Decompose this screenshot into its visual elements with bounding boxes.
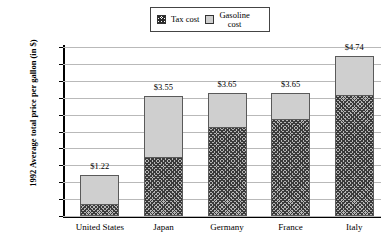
legend-label-gasoline-cost: Gasoline cost (219, 11, 249, 29)
bar-value-label: $3.65 (261, 79, 321, 89)
bar-segment-tax-cost (81, 204, 118, 215)
y-axis-tick-mark (59, 148, 63, 149)
legend-item-tax-cost: Tax cost (157, 15, 199, 24)
y-axis-tick-mark (59, 132, 63, 133)
bar-value-label: $1.22 (70, 161, 130, 171)
bar-value-label: $3.55 (133, 82, 193, 92)
gridline (63, 216, 381, 217)
bar-segment-tax-cost (336, 95, 373, 215)
bar-germany[interactable] (208, 93, 247, 216)
bar-segment-gasoline-cost (209, 94, 246, 127)
bar-value-label: $4.74 (324, 42, 384, 52)
bar-france[interactable] (271, 93, 310, 216)
bar-united-states[interactable] (80, 175, 119, 216)
bar-value-label: $3.65 (197, 79, 257, 89)
y-axis-tick-mark (59, 47, 63, 48)
plot-area: 0.000.501.001.502.002.503.003.504.004.50… (63, 47, 381, 216)
bar-japan[interactable] (144, 96, 183, 216)
bar-segment-gasoline-cost (272, 94, 309, 119)
hatch-swatch-icon (157, 15, 166, 24)
bar-segment-gasoline-cost (81, 176, 118, 204)
bar-segment-tax-cost (145, 157, 182, 215)
y-axis-tick-mark (59, 165, 63, 166)
y-axis-tick-mark (59, 115, 63, 116)
bar-segment-tax-cost (209, 127, 246, 215)
chart-legend: Tax cost Gasoline cost (150, 7, 270, 32)
legend-item-gasoline-cost: Gasoline cost (205, 11, 249, 29)
y-axis-line (63, 45, 65, 216)
y-axis-tick-mark (59, 64, 63, 65)
gray-swatch-icon (205, 15, 214, 24)
y-axis-tick-mark (59, 81, 63, 82)
bar-segment-gasoline-cost (336, 57, 373, 95)
y-axis-tick-mark (59, 182, 63, 183)
gridline (63, 64, 381, 65)
y-axis-tick-mark (59, 98, 63, 99)
bar-segment-gasoline-cost (145, 97, 182, 157)
bar-italy[interactable] (335, 56, 374, 216)
bar-segment-tax-cost (272, 119, 309, 215)
legend-label-gasoline-line2: cost (228, 19, 242, 29)
y-axis-tick-mark (59, 199, 63, 200)
y-axis-title: 1992 Average total price per gallon (in … (28, 18, 38, 208)
x-axis-label-italy: Italy (314, 222, 387, 232)
y-axis-tick-mark (59, 216, 63, 217)
legend-label-tax-cost: Tax cost (171, 15, 199, 24)
